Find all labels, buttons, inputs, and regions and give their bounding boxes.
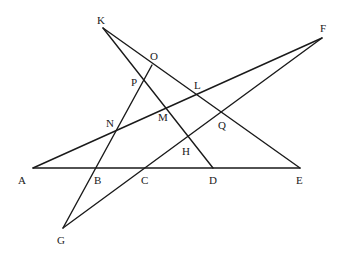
geometry-diagram: K O F P L N M Q H A B C D E G bbox=[0, 0, 344, 256]
point-label-C: C bbox=[141, 174, 148, 186]
point-label-K: K bbox=[97, 14, 105, 26]
point-label-A: A bbox=[18, 174, 26, 186]
segment-G-O bbox=[63, 65, 152, 228]
segment-K-E bbox=[103, 28, 300, 168]
segment-K-D bbox=[103, 28, 213, 168]
segment-G-F bbox=[63, 38, 322, 228]
point-label-Q: Q bbox=[218, 119, 226, 131]
labels-group: K O F P L N M Q H A B C D E G bbox=[18, 14, 326, 246]
point-label-P: P bbox=[131, 76, 137, 88]
segment-A-F bbox=[33, 38, 322, 168]
point-label-M: M bbox=[158, 111, 168, 123]
point-label-B: B bbox=[94, 174, 101, 186]
point-label-L: L bbox=[194, 79, 201, 91]
point-label-O: O bbox=[150, 50, 158, 62]
point-label-F: F bbox=[320, 22, 326, 34]
point-label-G: G bbox=[57, 234, 65, 246]
point-label-N: N bbox=[106, 117, 114, 129]
point-label-D: D bbox=[209, 174, 217, 186]
point-label-H: H bbox=[182, 145, 190, 157]
segments-group bbox=[33, 28, 322, 228]
point-label-E: E bbox=[296, 174, 303, 186]
